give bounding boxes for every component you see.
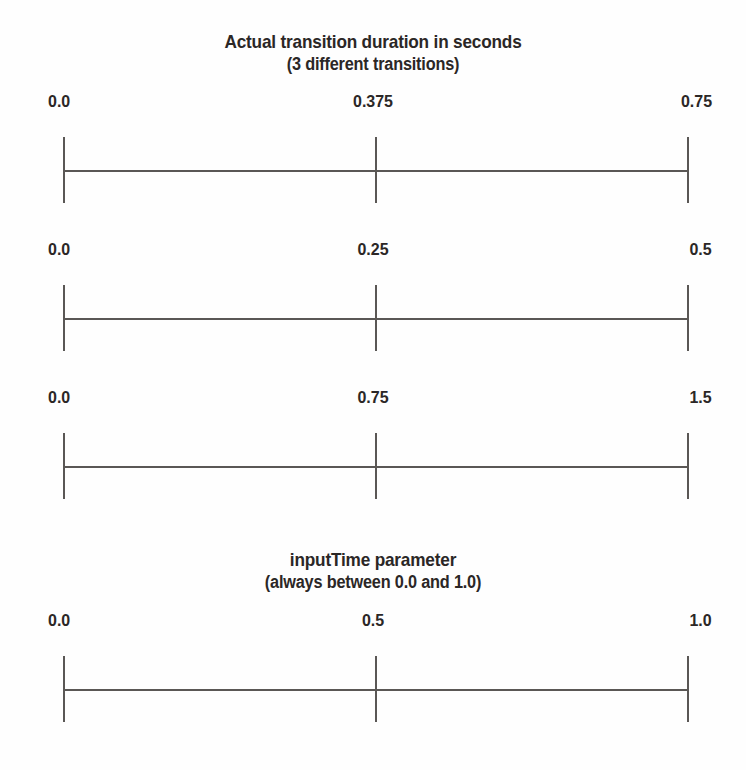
axis-ruler	[63, 137, 689, 203]
inputtime-axis: 0.0 0.5 1.0	[0, 610, 746, 722]
axis-ruler	[63, 433, 689, 499]
duration-axis-0-5: 0.0 0.25 0.5	[0, 239, 746, 351]
tick-label-end: 0.75	[681, 91, 712, 112]
tick-label-middle: 0.5	[22, 610, 723, 631]
tick-label-end: 0.5	[690, 239, 712, 260]
axis-labels: 0.0 0.375 0.75	[0, 91, 746, 121]
axis-tick-start	[63, 656, 65, 722]
tick-label-end: 1.0	[690, 610, 712, 631]
axis-tick-middle	[375, 433, 377, 499]
axis-tick-start	[63, 137, 65, 203]
tick-label-end: 1.5	[690, 387, 712, 408]
axis-tick-end	[687, 433, 689, 499]
bottom-caption-line2: (always between 0.0 and 1.0)	[26, 571, 720, 594]
axis-tick-start	[63, 285, 65, 351]
axis-tick-middle	[375, 285, 377, 351]
axis-tick-start	[63, 433, 65, 499]
top-caption: Actual transition duration in seconds (3…	[26, 30, 720, 76]
tick-label-middle: 0.25	[22, 239, 723, 260]
transition-timing-diagram: Actual transition duration in seconds (3…	[0, 0, 746, 770]
axis-tick-end	[687, 137, 689, 203]
bottom-caption: inputTime parameter (always between 0.0 …	[26, 548, 720, 594]
top-caption-line2: (3 different transitions)	[26, 53, 720, 76]
top-caption-line1: Actual transition duration in seconds	[224, 31, 521, 52]
axis-ruler	[63, 656, 689, 722]
axis-tick-middle	[375, 656, 377, 722]
duration-axis-0-75: 0.0 0.375 0.75	[0, 91, 746, 203]
tick-label-middle: 0.75	[22, 387, 723, 408]
axis-labels: 0.0 0.75 1.5	[0, 387, 746, 417]
axis-tick-end	[687, 656, 689, 722]
duration-axis-1-5: 0.0 0.75 1.5	[0, 387, 746, 499]
axis-tick-end	[687, 285, 689, 351]
axis-labels: 0.0 0.25 0.5	[0, 239, 746, 269]
axis-tick-middle	[375, 137, 377, 203]
bottom-caption-line1: inputTime parameter	[290, 549, 456, 570]
axis-ruler	[63, 285, 689, 351]
axis-labels: 0.0 0.5 1.0	[0, 610, 746, 640]
tick-label-middle: 0.375	[22, 91, 723, 112]
